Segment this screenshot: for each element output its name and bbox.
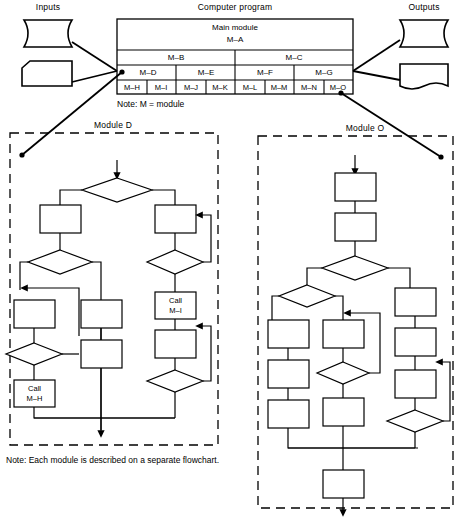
module-cell-mo: M–O xyxy=(330,83,346,92)
structure-chart-diagram: Inputs Outputs Computer program Main mod… xyxy=(0,0,463,520)
module-cell-mj: M–J xyxy=(184,83,198,92)
d-decision-left-2 xyxy=(6,343,62,365)
output-document-symbol xyxy=(400,64,448,89)
d-decision-top xyxy=(82,178,152,202)
program-label: Computer program xyxy=(198,3,273,13)
leader-dot-md-end xyxy=(19,152,24,157)
module-cell-mi: M–I xyxy=(155,83,168,92)
input-connector-2 xyxy=(72,71,117,82)
module-cell-md: M–D xyxy=(140,68,157,78)
d-decision-right-2 xyxy=(147,370,203,392)
input-connector-1 xyxy=(72,42,117,71)
module-cell-mc: M–C xyxy=(286,53,303,63)
o-process-final xyxy=(323,470,364,498)
o-decision-top xyxy=(322,256,388,280)
o-process-mid-1 xyxy=(323,320,364,348)
input-tape-symbol xyxy=(24,20,72,47)
module-cell-mn: M–N xyxy=(301,83,317,92)
input-card-symbol xyxy=(22,61,72,86)
module-cell-mk: M–K xyxy=(212,83,227,92)
module-o-flowchart xyxy=(268,155,450,513)
module-cell-mm: M–M xyxy=(271,83,288,92)
diagram-canvas xyxy=(0,0,463,520)
output-tape-symbol xyxy=(400,20,448,47)
note-flowchart-legend: Note: Each module is described on a sepa… xyxy=(6,455,219,465)
call-mh-line2: M–H xyxy=(27,395,43,404)
module-cell-me: M–E xyxy=(198,68,214,78)
o-decision-left xyxy=(279,285,335,307)
d-decision-right xyxy=(147,250,203,274)
d-process-right-1 xyxy=(155,205,196,233)
o-decision-right xyxy=(387,410,443,432)
call-mi-line1: Call xyxy=(169,297,182,306)
o-process-right-2 xyxy=(395,328,436,356)
note-module-legend: Note: M = module xyxy=(117,99,184,109)
module-cell-mf: M–F xyxy=(257,68,273,78)
inputs-label: Inputs xyxy=(36,3,60,13)
o-process-left-3 xyxy=(268,400,309,428)
main-module-line2: M–A xyxy=(227,35,243,45)
output-connector-2 xyxy=(353,71,400,80)
o-process-right-1 xyxy=(395,288,436,316)
main-module-line1: Main module xyxy=(212,23,258,33)
module-cell-mb: M–B xyxy=(168,53,184,63)
d-process-middle-2 xyxy=(81,340,122,368)
o-process-mid-2 xyxy=(323,398,364,426)
module-d-title: Module D xyxy=(94,121,132,131)
module-cell-mg: M–G xyxy=(315,68,332,78)
d-decision-left xyxy=(28,250,92,274)
d-process-middle-1 xyxy=(81,300,122,328)
o-process-left-1 xyxy=(268,320,309,348)
o-process-left-2 xyxy=(268,360,309,388)
module-o-title: Module O xyxy=(346,124,384,134)
d-process-right-2 xyxy=(155,330,196,358)
o-process-2 xyxy=(335,213,376,241)
call-mi-line2: M–I xyxy=(169,307,182,316)
output-connector-1 xyxy=(353,40,400,71)
call-mh-line1: Call xyxy=(28,385,41,394)
o-process-1 xyxy=(335,173,376,201)
outputs-label: Outputs xyxy=(408,3,439,13)
d-process-left-2 xyxy=(14,300,55,328)
leader-dot-mo-end xyxy=(438,154,443,159)
o-decision-mid xyxy=(317,362,369,384)
module-cell-ml: M–L xyxy=(243,83,258,92)
d-process-left-1 xyxy=(40,205,81,233)
leader-dot-md-start xyxy=(119,69,124,74)
module-cell-mh: M–H xyxy=(124,83,140,92)
o-process-right-3 xyxy=(395,370,436,398)
